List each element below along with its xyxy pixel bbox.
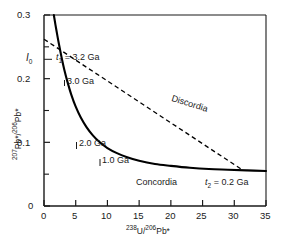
y-tick-label-0: 0 [28,201,33,211]
age-label-3-0-Ga: 3.0 Ga [67,77,94,86]
age-label-t2: t2 = 0.2 Ga [205,178,248,187]
x-tick-label-35: 35 [260,211,271,221]
x-tick-label-25: 25 [196,211,207,221]
y-tick-label-0-2: 0.2 [17,74,30,84]
y-axis-title: 207Pb*/206Pb* [14,108,23,160]
concordia-series-label: Concordia [136,178,177,187]
t2-value: = 0.2 Ga [211,177,248,187]
x-axis-title-pb-denominator: Pb* [156,226,170,236]
x-axis-title-mass-238: 238 [126,224,137,231]
x-tick-label-5: 5 [72,211,77,221]
age-label-1-0-Ga: 1.0 Ga [102,156,129,165]
I0-subscript: 0 [29,58,33,65]
y-axis-title-pb-numerator: Pb*/ [13,133,23,149]
x-tick-label-0: 0 [41,211,46,221]
y-axis-title-mass-207: 207 [11,149,18,160]
y-tick-label-0-3: 0.3 [17,10,30,20]
y-minor-ticks [44,47,49,174]
concordia-diagram-figure: 0 0.1 0.2 0.3 0 5 10 15 20 25 30 35 207P… [0,0,282,246]
x-axis-title: 238U/206Pb* [126,227,170,236]
age-label-t1: t1 = 3.2 Ga [56,53,99,62]
x-tick-label-15: 15 [133,211,144,221]
concordia-curve [54,15,266,171]
x-axis-title-mass-206: 206 [145,224,156,231]
t1-value: = 3.2 Ga [62,52,99,62]
x-tick-label-30: 30 [228,211,239,221]
initial-ratio-label-I0: I0 [26,53,32,63]
x-tick-label-20: 20 [165,211,176,221]
y-axis-title-pb-denominator: Pb* [13,108,23,122]
x-major-ticks [44,200,266,206]
age-label-2-0-Ga: 2.0 Ga [79,139,106,148]
y-axis-title-mass-206: 206 [11,122,18,133]
x-tick-label-10: 10 [101,211,112,221]
